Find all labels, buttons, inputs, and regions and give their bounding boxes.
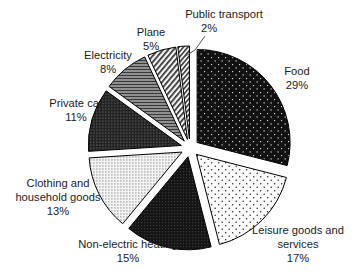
pie-slices-group <box>88 46 290 250</box>
pie-value-non-electric-heating: 15% <box>117 252 139 264</box>
pie-value-plane: 5% <box>143 40 159 52</box>
pie-value-leisure-goods-and-services: 17% <box>287 252 309 264</box>
pie-label-leisure-goods-and-services-line2: services <box>277 238 318 250</box>
pie-value-food: 29% <box>286 79 308 91</box>
pie-label-clothing-and-household-goods-line2: household goods <box>15 191 101 203</box>
pie-value-electricity: 8% <box>100 63 116 75</box>
pie-value-public-transport: 2% <box>201 22 217 34</box>
pie-value-clothing-and-household-goods: 13% <box>47 205 69 217</box>
pie-label-plane: Plane <box>137 26 166 38</box>
pie-label-food: Food <box>284 65 310 77</box>
pie-slice-food[interactable] <box>197 49 290 165</box>
pie-value-private-car: 11% <box>65 111 87 123</box>
pie-chart-figure: Food 29% Leisure goods and services 17% … <box>0 0 355 279</box>
pie-label-electricity: Electricity <box>84 49 132 61</box>
pie-chart-canvas: Food 29% Leisure goods and services 17% … <box>0 0 355 279</box>
pie-label-non-electric-heating: Non-electric heating <box>78 238 178 250</box>
pie-label-leisure-goods-and-services-line1: Leisure goods and <box>252 224 344 236</box>
pie-label-private-car: Private car <box>49 97 103 109</box>
pie-label-public-transport: Public transport <box>185 8 264 20</box>
pie-label-clothing-and-household-goods-line1: Clothing and <box>27 177 90 189</box>
